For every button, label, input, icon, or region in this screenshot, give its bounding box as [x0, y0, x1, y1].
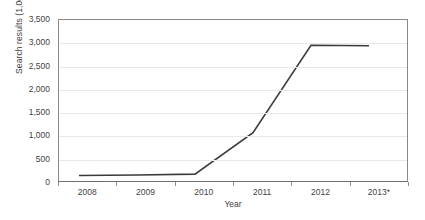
- y-axis-tick-label: 0: [24, 177, 54, 187]
- y-axis-tick-label: 1,000: [24, 130, 54, 140]
- x-axis-tick-label: 2009: [136, 187, 155, 197]
- x-axis-tick: [58, 182, 59, 186]
- gridline: [59, 67, 407, 68]
- x-axis-tick: [175, 182, 176, 186]
- gridline: [59, 113, 407, 114]
- x-axis-title: Year: [58, 199, 408, 209]
- x-axis-tick: [350, 182, 351, 186]
- x-axis-tick: [116, 182, 117, 186]
- y-axis-tick-label: 3,500: [24, 14, 54, 24]
- gridline: [59, 160, 407, 161]
- x-axis-tick-label: 2012: [311, 187, 330, 197]
- line-chart: Search results (1,000) 3,5003,0002,5002,…: [0, 0, 425, 220]
- y-axis-tick-label: 2,500: [24, 61, 54, 71]
- y-axis-tick-label: 2,000: [24, 84, 54, 94]
- gridline: [59, 43, 407, 44]
- gridline: [59, 90, 407, 91]
- y-axis-tick-label: 1,500: [24, 107, 54, 117]
- x-axis-tick-label: 2011: [253, 187, 271, 197]
- x-axis-tick-label: 2013*: [368, 187, 390, 197]
- y-axis-tick-label: 3,000: [24, 37, 54, 47]
- x-axis-tick: [291, 182, 292, 186]
- plot-area: [58, 19, 408, 182]
- y-axis-tick-label: 500: [24, 154, 54, 164]
- y-axis-tick-labels: 3,5003,0002,5002,0001,5001,0005000: [24, 0, 54, 220]
- x-axis-tick: [408, 182, 409, 186]
- x-axis-tick: [233, 182, 234, 186]
- series-polyline: [79, 45, 369, 175]
- x-axis-tick-label: 2008: [78, 187, 97, 197]
- x-axis-tick-label: 2010: [194, 187, 213, 197]
- gridline: [59, 136, 407, 137]
